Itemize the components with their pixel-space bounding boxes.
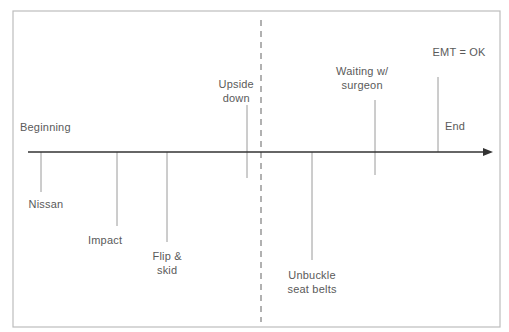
label-unbuckle: Unbuckleseat belts [288, 268, 337, 296]
label-line: surgeon [336, 78, 388, 92]
label-line: seat belts [288, 282, 337, 296]
label-waiting: Waiting w/surgeon [336, 64, 388, 92]
label-line: End [445, 119, 465, 133]
label-line: skid [153, 263, 182, 277]
label-line: Impact [88, 233, 122, 247]
label-line: Beginning [20, 120, 71, 134]
label-line: down [219, 91, 254, 105]
label-beginning: Beginning [20, 120, 71, 134]
label-line: Flip & [153, 249, 182, 263]
label-line: Waiting w/ [336, 64, 388, 78]
arrowhead-icon [483, 148, 493, 156]
label-line: EMT = OK [433, 45, 486, 59]
label-emt-ok: EMT = OK [433, 45, 486, 59]
label-line: Nissan [29, 197, 64, 211]
label-line: Upside [219, 77, 254, 91]
label-nissan: Nissan [29, 197, 64, 211]
diagram-frame [13, 11, 500, 327]
label-end: End [445, 119, 465, 133]
label-upside-down: Upsidedown [219, 77, 254, 105]
label-impact: Impact [88, 233, 122, 247]
label-flip-skid: Flip &skid [153, 249, 182, 277]
label-line: Unbuckle [288, 268, 337, 282]
